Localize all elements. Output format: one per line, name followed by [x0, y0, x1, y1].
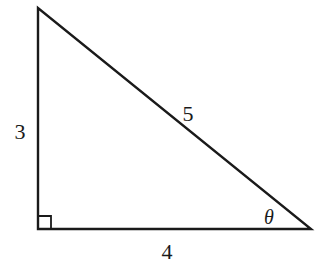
angle-label-theta: θ: [264, 206, 274, 228]
side-label-hypotenuse: 5: [183, 101, 194, 126]
right-angle-marker: [38, 216, 51, 229]
side-label-vertical: 3: [15, 119, 26, 144]
side-label-horizontal: 4: [162, 239, 173, 264]
triangle-diagram: 3 5 4 θ: [0, 0, 327, 274]
right-triangle: [38, 8, 311, 229]
